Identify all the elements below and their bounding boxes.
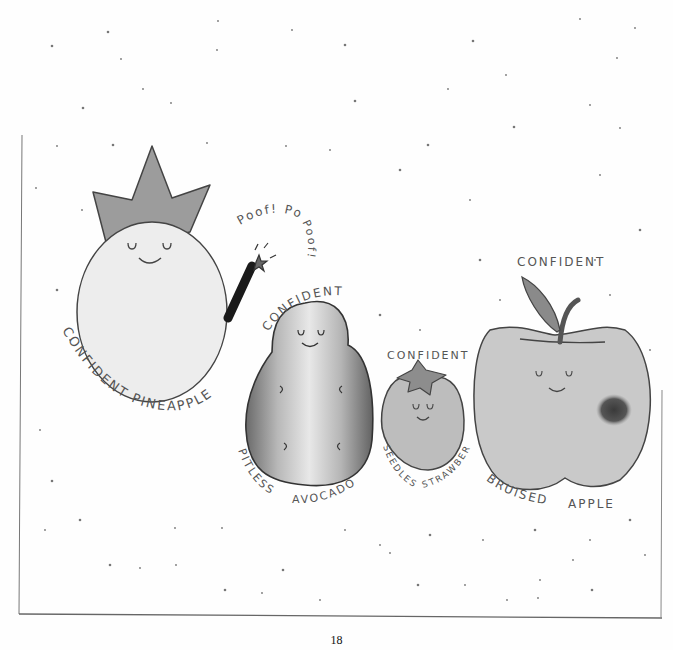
speckle-dot — [629, 519, 632, 522]
speckle-dot — [109, 564, 112, 567]
speckle-dot — [506, 599, 508, 601]
speckle-dot — [82, 107, 85, 110]
speckle-dot — [112, 144, 115, 147]
speckle-dot — [417, 584, 420, 587]
speckle-dot — [216, 49, 218, 51]
speckle-dot — [206, 142, 208, 144]
speckle-dot — [644, 554, 646, 556]
apple-leaf — [522, 277, 560, 332]
speckle-dot — [174, 527, 176, 529]
speckle-dot — [464, 584, 466, 586]
speckle-dot — [589, 539, 591, 541]
speckle-dot — [107, 31, 110, 34]
speckle-dot — [139, 567, 141, 569]
speckle-dot — [120, 58, 122, 60]
pineapple-character: CONFIDENT PINEAPPLE Poof! Poof! Poof! — [0, 0, 318, 413]
speckle-dot — [379, 314, 382, 317]
speckle-dot — [379, 544, 381, 546]
speckle-dot — [285, 145, 287, 147]
speckle-dot — [354, 100, 357, 103]
apple-label-right: APPLE — [568, 497, 615, 511]
speckle-dot — [505, 74, 507, 76]
wand-sparkle-icon — [254, 243, 276, 271]
magic-wand — [228, 266, 252, 318]
avocado-character: CONFIDENT PITLESS AVOCADO — [235, 284, 373, 506]
speckle-dot — [619, 127, 621, 129]
page-number: 18 — [0, 633, 673, 648]
strawberry-character: CONFIDENT SEEDLESS STRAWBERRY — [0, 0, 473, 490]
poof-text-2: Poof! — [299, 218, 318, 261]
speckle-dot — [291, 29, 293, 31]
apple-top-label: CONFIDENT — [517, 255, 605, 269]
speckle-dot — [472, 40, 475, 43]
book-page: CONFIDENT PINEAPPLE Poof! Poof! Poof! CO… — [0, 0, 673, 650]
speckle-dot — [81, 209, 83, 211]
speckle-dot — [142, 88, 144, 90]
speckle-dot — [399, 169, 402, 172]
speckle-dot — [51, 480, 54, 483]
speckle-dot — [591, 589, 594, 592]
speckle-dot — [482, 539, 484, 541]
speckle-dot — [35, 187, 37, 189]
apple-character: CONFIDENT BRUISED APPLE — [474, 255, 650, 511]
speckle-dot — [217, 20, 219, 22]
speckle-dot — [389, 552, 391, 554]
speckle-dot — [469, 199, 471, 201]
apple-bruise — [596, 394, 632, 426]
speckle-dot — [261, 592, 263, 594]
speckle-dot — [344, 44, 347, 47]
speckle-dot — [344, 529, 346, 531]
speckle-dot — [329, 149, 331, 151]
speckle-dot — [513, 126, 516, 129]
speckle-dot — [221, 527, 223, 529]
speckle-dot — [319, 599, 321, 601]
speckle-dot — [419, 329, 421, 331]
speckle-dot — [56, 289, 59, 292]
speckle-dot — [79, 519, 82, 522]
speckle-dot — [427, 144, 430, 147]
speckle-dot — [639, 229, 642, 232]
speckle-dot — [175, 564, 177, 566]
speckle-dot — [479, 259, 482, 262]
speckle-dot — [572, 559, 574, 561]
speckle-dot — [429, 534, 432, 537]
speckle-dot — [51, 45, 54, 48]
speckle-dot — [224, 589, 227, 592]
speckle-dot — [539, 579, 541, 581]
speckle-dot — [589, 104, 591, 106]
speckle-dot — [170, 102, 172, 104]
strawberry-top-label: CONFIDENT — [387, 349, 470, 362]
speckle-dot — [649, 349, 651, 351]
speckle-dot — [616, 57, 618, 59]
speckle-dot — [609, 294, 611, 296]
speckle-dot — [534, 529, 537, 532]
illustration: CONFIDENT PINEAPPLE Poof! Poof! Poof! CO… — [0, 0, 673, 650]
speckle-dot — [44, 529, 46, 531]
speckle-dot — [282, 569, 285, 572]
speckle-dot — [579, 18, 581, 20]
speckle-dot — [39, 429, 41, 431]
speckle-dot — [499, 299, 501, 301]
speckle-dot — [634, 27, 636, 29]
speckle-dot — [599, 174, 601, 176]
speckle-dot — [56, 145, 58, 147]
speckle-dot — [537, 597, 539, 599]
speckle-dot — [447, 88, 449, 90]
